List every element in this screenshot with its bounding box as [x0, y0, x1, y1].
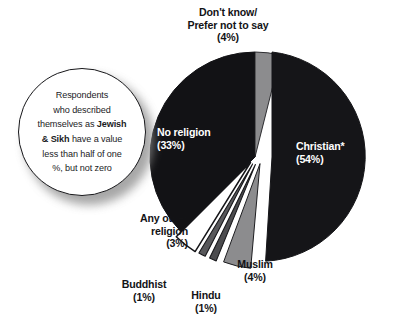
callout-text: Respondents who described themselves as … — [22, 88, 142, 176]
slice-label-hindu: Hindu (1%) — [176, 289, 236, 314]
slice-label-any-other-religion: Any other religion (3%) — [106, 212, 188, 250]
callout-line-3-prefix: themselves as — [38, 119, 97, 129]
callout-note: Respondents who described themselves as … — [18, 68, 154, 204]
slice-label-christian: Christian* (54%) — [296, 140, 392, 165]
callout-bold-jewish: Jewish — [97, 119, 127, 129]
slice-label-muslim: Muslim (4%) — [222, 258, 288, 283]
slice-label-dont-know: Don't know/ Prefer not to say (4%) — [148, 6, 308, 44]
callout-line-5: less than half of one — [42, 149, 121, 159]
callout-circle: Respondents who described themselves as … — [18, 68, 146, 196]
callout-line-4-suffix: have a value — [69, 134, 122, 144]
callout-bold-sikh: & Sikh — [42, 134, 70, 144]
callout-line-2: who described — [53, 105, 110, 115]
slice-label-buddhist: Buddhist (1%) — [110, 278, 178, 303]
callout-line-1: Respondents — [56, 90, 109, 100]
slice-label-no-religion: No religion (33%) — [157, 126, 261, 151]
chart-page: Respondents who described themselves as … — [0, 0, 414, 330]
callout-line-6: %, but not zero — [52, 163, 112, 173]
